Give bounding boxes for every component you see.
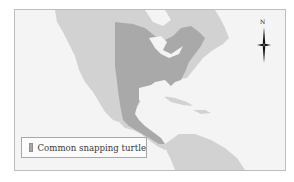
- hispaniola-island: [193, 110, 211, 114]
- legend-label: Common snapping turtle: [38, 143, 146, 153]
- compass: N: [257, 19, 271, 63]
- compass-rose-icon: [257, 27, 271, 63]
- south-america-land: [165, 134, 245, 170]
- north-label: N: [260, 19, 265, 25]
- legend-swatch-range: [29, 143, 33, 152]
- map-legend: Common snapping turtle: [21, 137, 147, 158]
- cuba-island: [163, 96, 193, 106]
